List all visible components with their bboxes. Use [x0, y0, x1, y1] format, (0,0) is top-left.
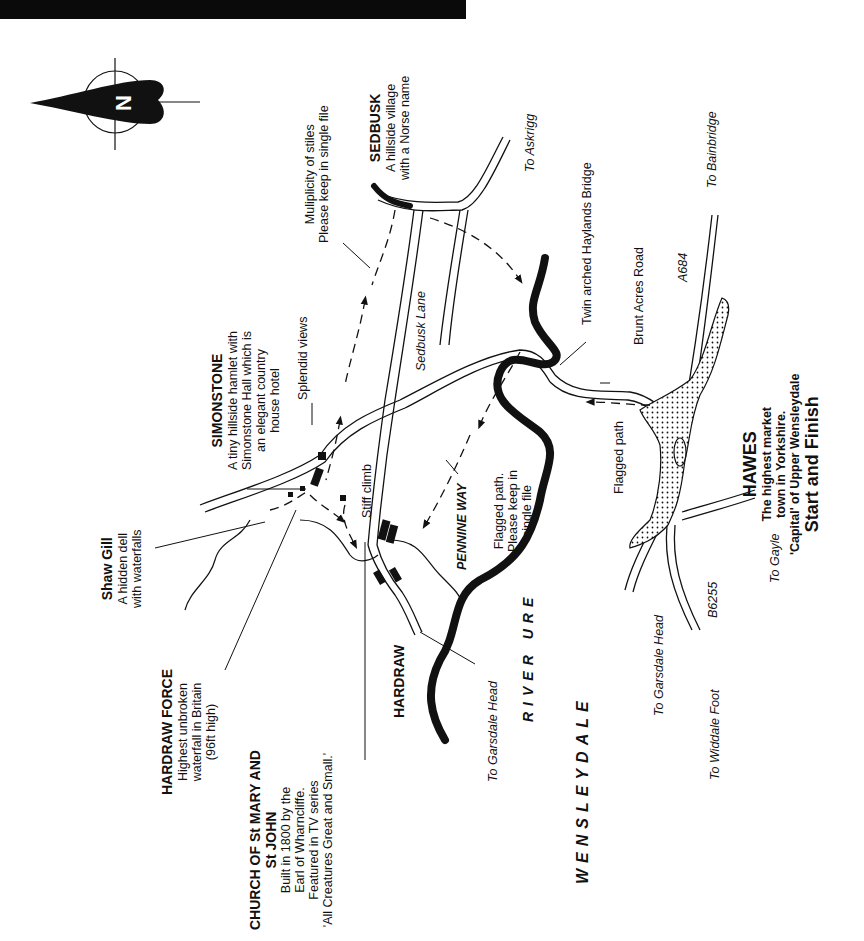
- label-shaw-gill: Shaw Gill A hidden dell with waterfalls: [100, 530, 144, 609]
- label-sedbusk: SEDBUSK A hillside village with a Norse …: [368, 76, 412, 180]
- place-name-hawes: HAWES: [740, 374, 760, 555]
- direction-gayle: To Gayle: [768, 533, 782, 583]
- direction-garsdale-head-1: To Garsdale Head: [486, 681, 500, 782]
- svg-text:N: N: [111, 95, 136, 111]
- road-pennine-way: PENNINE WAY: [455, 483, 469, 570]
- map-canvas: N: [0, 0, 864, 941]
- note-haylands-bridge: Twin arched Haylands Bridge: [580, 162, 594, 325]
- place-name-sedbusk: SEDBUSK: [368, 76, 384, 180]
- road-a684: A684: [676, 253, 690, 282]
- note-flagged-path-hawes: Flagged path: [612, 421, 626, 494]
- north-arrow-icon: N: [30, 58, 200, 150]
- direction-garsdale-head-2: To Garsdale Head: [652, 615, 666, 716]
- start-finish-label: Start and Finish: [802, 374, 822, 555]
- direction-askrigg: To Askrigg: [523, 114, 537, 172]
- place-name-simonstone: SIMONSTONE: [210, 331, 226, 470]
- label-river-ure: RIVER URE: [521, 592, 537, 722]
- direction-widdale-foot: To Widdale Foot: [708, 690, 722, 780]
- road-sedbusk-lane: Sedbusk Lane: [414, 291, 428, 371]
- note-stiff-climb: Stiff climb: [360, 464, 374, 518]
- place-name-hardraw-force: HARDRAW FORCE: [160, 669, 176, 795]
- place-name-church: CHURCH OF St MARY AND: [248, 750, 264, 930]
- label-simonstone: SIMONSTONE A tiny hillside hamlet with S…: [210, 331, 282, 470]
- note-splendid-views: Splendid views: [296, 317, 310, 400]
- note-flagged-path-pennine: Flagged path. Please keep in single file: [492, 470, 534, 552]
- place-name-shaw-gill: Shaw Gill: [100, 530, 116, 609]
- label-church: CHURCH OF St MARY AND St JOHN Built in 1…: [248, 750, 335, 930]
- label-hardraw: HARDRAW: [392, 645, 408, 718]
- label-wensleydale: WENSLEYDALE: [574, 695, 592, 884]
- direction-bainbridge: To Bainbridge: [705, 111, 719, 188]
- note-stiles: Muliplicity of stiles Please keep in sin…: [303, 105, 331, 243]
- label-hardraw-force: HARDRAW FORCE Highest unbroken waterfall…: [160, 669, 218, 795]
- note-brunt-acres-road: Brunt Acres Road: [632, 247, 646, 345]
- label-hawes: HAWES The highest market town in Yorkshi…: [740, 374, 822, 555]
- road-b6255: B6255: [706, 582, 720, 618]
